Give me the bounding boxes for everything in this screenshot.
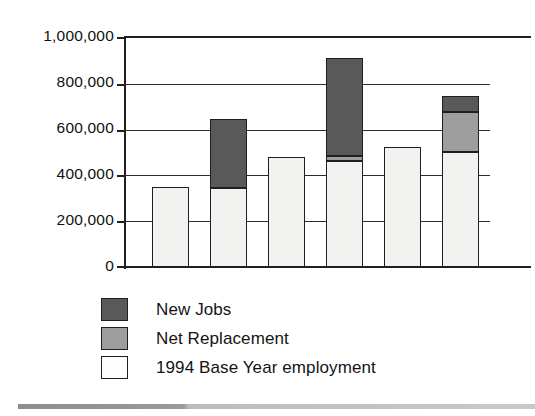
bar-5-segment-base-year [384, 147, 421, 267]
bar-3[interactable] [268, 157, 305, 267]
y-tick-label-1000000: 1,000,000 [43, 27, 114, 45]
bar-4-segment-new-jobs [326, 58, 363, 156]
bar-4-segment-base-year [326, 161, 363, 267]
legend-swatch-net-replacement [101, 327, 128, 350]
bar-6-segment-new-jobs [442, 96, 479, 112]
legend-label-new-jobs: New Jobs [156, 300, 231, 320]
y-tick-label-400000: 400,000 [57, 165, 114, 183]
legend-item-new-jobs[interactable]: New Jobs [101, 295, 481, 324]
legend-swatch-new-jobs [101, 298, 128, 321]
page-footer-rule [18, 404, 535, 409]
bar-6[interactable] [442, 96, 479, 267]
bar-1[interactable] [152, 187, 189, 267]
bar-6-segment-net-replacement [442, 112, 479, 152]
bar-2[interactable] [210, 119, 247, 267]
legend-item-base-year[interactable]: 1994 Base Year employment [101, 353, 481, 382]
legend-label-base-year: 1994 Base Year employment [156, 358, 376, 378]
y-tick-label-600000: 600,000 [57, 119, 114, 137]
y-tick-label-800000: 800,000 [57, 73, 114, 91]
legend-swatch-base-year [101, 356, 128, 379]
bars-layer [124, 38, 490, 267]
bar-3-segment-base-year [268, 157, 305, 267]
bar-2-segment-base-year [210, 188, 247, 267]
stacked-bar-chart: 1,000,000 800,000 600,000 400,000 200,00… [0, 0, 535, 416]
legend-label-net-replacement: Net Replacement [156, 329, 289, 349]
bar-5[interactable] [384, 147, 421, 267]
legend-item-net-replacement[interactable]: Net Replacement [101, 324, 481, 353]
y-tick-label-200000: 200,000 [57, 211, 114, 229]
bar-4-segment-net-replacement [326, 156, 363, 161]
chart-legend: New Jobs Net Replacement 1994 Base Year … [101, 295, 481, 382]
bar-1-segment-base-year [152, 187, 189, 267]
bar-6-segment-base-year [442, 152, 479, 267]
bar-2-segment-new-jobs [210, 119, 247, 188]
bar-4[interactable] [326, 58, 363, 267]
y-tick-label-0: 0 [105, 257, 114, 275]
